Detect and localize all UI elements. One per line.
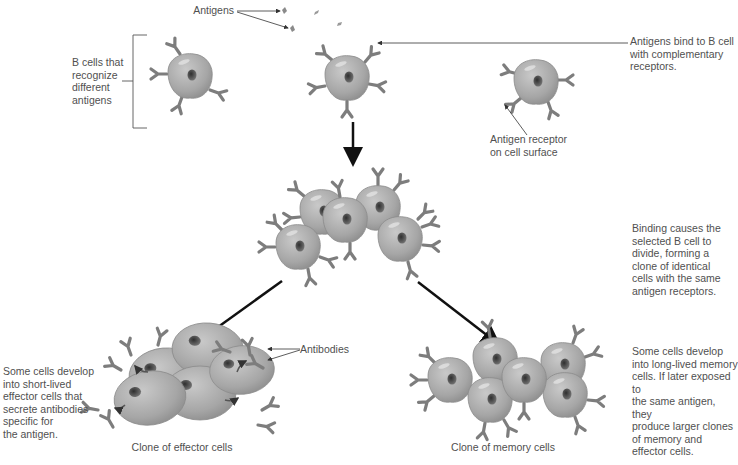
label-line: the same antigen, they [632,395,738,420]
b-cell-right [501,60,573,119]
label-line: Some cells develop [3,365,94,378]
clone-memory-label: Clone of memory cells [451,441,555,453]
label-line: different [72,81,123,94]
label-line: into long-lived memory [632,358,738,371]
label-line: secrete antibodies [3,403,94,416]
label-line: cells with the same [632,272,721,285]
label-line: into short-lived [3,378,94,391]
memory-clone [411,320,604,439]
label-line: clone of identical [632,260,721,273]
label-line: B cells that [72,56,123,69]
label-line: cells. If later exposed to [632,370,738,395]
label-line: effector cells that [3,390,94,403]
antigens-label: Antigens [193,4,234,16]
label-line: Binding causes the [632,222,721,235]
memory-arrow [418,282,497,343]
label-line: with complementary [630,48,734,61]
memory-description: Some cells develop into long-lived memor… [632,345,738,458]
label-line: recognize [72,69,123,82]
label-line: antigens [72,94,123,107]
antibodies-label: Antibodies [300,343,349,355]
binding-causes-label: Binding causes the selected B cell to di… [632,222,721,297]
antigens-pointer [237,12,288,28]
effector-description: Some cells develop into short-lived effe… [3,365,94,440]
label-line: Antigens bind to B cell [630,35,734,48]
label-line: divide, forming a [632,247,721,260]
b-cells-recognize-label: B cells that recognize different antigen… [72,56,123,106]
label-line: the antigen. [3,428,94,441]
receptor-pointer [505,105,527,135]
b-cell-left [151,38,227,114]
antigen-receptor-label: Antigen receptor on cell surface [490,133,567,158]
antibodies-pointer [268,350,300,360]
label-line: Some cells develop [632,345,738,358]
antigens-bind-label: Antigens bind to B cell with complementa… [630,35,734,73]
proliferating-clone [259,169,439,286]
clone-effector-label: Clone of effector cells [132,441,233,453]
label-line: of memory and [632,433,738,446]
label-line: selected B cell to [632,235,721,248]
b-cell-selected [308,46,385,117]
effector-clone [81,320,278,433]
label-line: effector cells. [632,445,738,458]
label-line: receptors. [630,60,734,73]
label-line: specific for [3,415,94,428]
b-cells-bracket [122,35,147,128]
label-line: Antigen receptor [490,133,567,146]
label-line: antigen receptors. [632,285,721,298]
label-line: produce larger clones [632,420,738,433]
label-line: on cell surface [490,146,567,159]
antigen-particles [282,7,342,32]
